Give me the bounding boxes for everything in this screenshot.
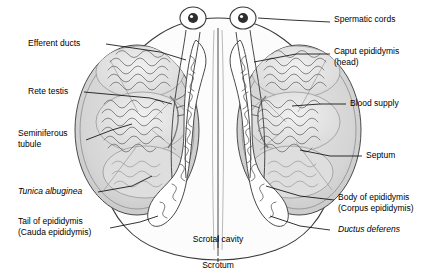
label-body-of-epididymis: Body of epididymis (Corpus epididymis): [338, 192, 414, 213]
label-tail-of-epididymis: Tail of epididymis (Cauda epididymis): [18, 216, 91, 237]
label-line: (head): [334, 57, 399, 68]
label-efferent-ducts: Efferent ducts: [28, 38, 80, 49]
label-septum: Septum: [366, 150, 395, 161]
anatomy-diagram: Efferent ducts Rete testis Seminiferous …: [0, 0, 436, 276]
label-blood-supply: Blood supply: [350, 98, 399, 109]
label-line: Seminiferous: [18, 128, 68, 139]
label-caput-epididymis: Caput epididymis (head): [334, 46, 399, 67]
label-line: (Cauda epididymis): [18, 227, 91, 238]
label-tunica-albuginea: Tunica albuginea: [18, 186, 82, 197]
label-line: Septum: [366, 150, 395, 161]
label-line: Blood supply: [350, 98, 399, 109]
label-scrotum: Scrotum: [188, 260, 248, 271]
label-line: Tail of epididymis: [18, 216, 91, 227]
label-spermatic-cords: Spermatic cords: [334, 14, 395, 25]
label-ductus-deferens: Ductus deferens: [338, 224, 400, 235]
label-scrotal-cavity: Scrotal cavity: [178, 234, 258, 245]
label-rete-testis: Rete testis: [28, 86, 68, 97]
label-line: (Corpus epididymis): [338, 203, 414, 214]
label-line: Scrotum: [188, 260, 248, 271]
label-line: Body of epididymis: [338, 192, 414, 203]
label-line: Caput epididymis: [334, 46, 399, 57]
label-line: Spermatic cords: [334, 14, 395, 25]
label-line: Efferent ducts: [28, 38, 80, 49]
label-line: Rete testis: [28, 86, 68, 97]
label-seminiferous-tubule: Seminiferous tubule: [18, 128, 68, 149]
label-line: Scrotal cavity: [178, 234, 258, 245]
label-line: Tunica albuginea: [18, 186, 82, 197]
label-line: tubule: [18, 139, 68, 150]
label-line: Ductus deferens: [338, 224, 400, 235]
